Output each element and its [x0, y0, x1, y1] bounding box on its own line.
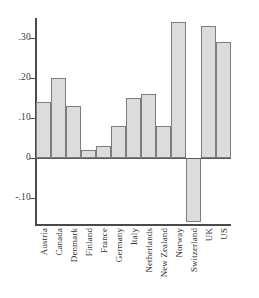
- y-tick-mark: [30, 78, 35, 79]
- x-tick-label: UK: [204, 228, 213, 241]
- bar: [36, 102, 51, 158]
- x-tick-label: Switzerland: [189, 228, 198, 272]
- bar: [126, 98, 141, 158]
- x-tick-label-slot: Finland: [81, 228, 96, 298]
- bar: [141, 94, 156, 158]
- x-tick-label-slot: Switzerland: [186, 228, 201, 298]
- bar: [96, 146, 111, 158]
- y-tick-mark: [30, 198, 35, 199]
- x-tick-label: Denmark: [69, 228, 78, 262]
- y-tick-mark: [30, 38, 35, 39]
- bar: [186, 158, 201, 222]
- bar: [66, 106, 81, 158]
- bar: [51, 78, 66, 158]
- bar: [171, 22, 186, 158]
- x-tick-label-slot: France: [96, 228, 111, 298]
- y-tick-label: -.10: [15, 193, 31, 203]
- x-tick-label-slot: UK: [201, 228, 216, 298]
- x-axis-category-labels: AustriaCanadaDenmarkFinlandFranceGermany…: [36, 228, 231, 298]
- x-tick-label-slot: Germany: [111, 228, 126, 298]
- y-tick-mark: [30, 118, 35, 119]
- x-tick-label: Netherlands: [144, 228, 153, 273]
- x-tick-label-slot: Austria: [36, 228, 51, 298]
- x-tick-label: France: [99, 228, 108, 253]
- x-tick-label-slot: New Zealand: [156, 228, 171, 298]
- x-tick-label: Germany: [114, 228, 123, 262]
- x-tick-label-slot: Norway: [171, 228, 186, 298]
- x-tick-label: Canada: [54, 228, 63, 256]
- zero-baseline: [35, 158, 231, 159]
- bar: [216, 42, 231, 158]
- bar-chart-figure: .30.20.100-.10 AustriaCanadaDenmarkFinla…: [0, 0, 259, 298]
- bar: [111, 126, 126, 158]
- bar: [201, 26, 216, 158]
- x-tick-label-slot: Netherlands: [141, 228, 156, 298]
- x-tick-label: Austria: [39, 228, 48, 255]
- x-tick-label-slot: Denmark: [66, 228, 81, 298]
- bars-layer: [36, 18, 231, 226]
- x-tick-label: New Zealand: [159, 228, 168, 277]
- x-tick-label: US: [219, 228, 228, 240]
- x-tick-label-slot: US: [216, 228, 231, 298]
- x-tick-label: Italy: [129, 228, 138, 245]
- x-tick-label: Finland: [84, 228, 93, 256]
- x-tick-label-slot: Canada: [51, 228, 66, 298]
- x-tick-label: Norway: [174, 228, 183, 258]
- x-tick-label-slot: Italy: [126, 228, 141, 298]
- bar: [81, 150, 96, 158]
- bar: [156, 126, 171, 158]
